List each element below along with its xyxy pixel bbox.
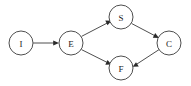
edge-c-to-f bbox=[133, 50, 160, 67]
graph-canvas: I E S F C bbox=[0, 0, 191, 86]
node-s-label: S bbox=[118, 13, 123, 23]
edge-s-to-c bbox=[132, 24, 159, 38]
graph-diagram: I E S F C bbox=[0, 0, 191, 86]
edge-e-to-s-line bbox=[82, 23, 108, 37]
node-f-label: F bbox=[118, 64, 123, 74]
node-i-label: I bbox=[20, 39, 23, 49]
node-f[interactable]: F bbox=[109, 56, 133, 80]
node-c-label: C bbox=[166, 39, 172, 49]
node-e[interactable]: E bbox=[59, 31, 83, 55]
node-c[interactable]: C bbox=[157, 31, 181, 55]
node-s[interactable]: S bbox=[109, 5, 133, 29]
node-e-label: E bbox=[68, 39, 74, 49]
node-i[interactable]: I bbox=[9, 31, 33, 55]
edge-i-to-e-arrowhead bbox=[53, 41, 59, 46]
edge-e-to-f bbox=[82, 50, 112, 65]
edge-e-to-f-line bbox=[82, 50, 108, 63]
edge-s-to-c-line bbox=[132, 24, 155, 36]
edge-i-to-e bbox=[33, 41, 59, 46]
edge-c-to-f-line bbox=[137, 50, 160, 65]
edge-e-to-s bbox=[82, 21, 112, 37]
